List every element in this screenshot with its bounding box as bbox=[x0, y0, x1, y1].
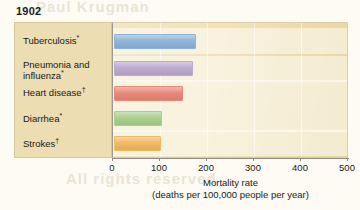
gridline-400 bbox=[301, 23, 302, 157]
bar-tuberculosis bbox=[114, 34, 196, 49]
category-label: Tuberculosis* bbox=[23, 35, 79, 46]
bar-diarrhea bbox=[114, 111, 162, 126]
x-tick-0 bbox=[112, 158, 113, 161]
gridline-300 bbox=[254, 23, 255, 157]
category-label-text: Strokes bbox=[23, 138, 55, 149]
category-label-panel: Tuberculosis*Pneumonia andinfluenza*Hear… bbox=[14, 22, 112, 158]
category-label-text: Heart disease bbox=[23, 87, 82, 98]
x-tick-label-500: 500 bbox=[339, 162, 355, 173]
bar-pneumonia-and-influenza bbox=[114, 61, 193, 76]
category-label-text: Tuberculosis bbox=[23, 35, 77, 46]
footnote-marker: † bbox=[55, 137, 59, 144]
plot-area bbox=[112, 22, 348, 158]
x-tick-label-0: 0 bbox=[109, 162, 114, 173]
x-tick-label-100: 100 bbox=[151, 162, 167, 173]
footnote-marker: † bbox=[82, 86, 86, 93]
category-label: Strokes† bbox=[23, 138, 59, 149]
mortality-rate-bar-chart: Paul Krugman Economics Pearson Education… bbox=[0, 0, 360, 210]
x-axis-line bbox=[112, 158, 349, 159]
category-label-line2: influenza* bbox=[23, 70, 90, 81]
category-label: Pneumonia andinfluenza* bbox=[23, 59, 90, 81]
footnote-marker: * bbox=[59, 112, 62, 119]
bar-strokes bbox=[114, 136, 161, 151]
x-axis-title-main: Mortality rate bbox=[203, 177, 258, 188]
x-tick-100 bbox=[159, 158, 160, 161]
x-tick-label-300: 300 bbox=[245, 162, 261, 173]
category-label: Diarrhea* bbox=[23, 113, 62, 124]
x-tick-label-400: 400 bbox=[292, 162, 308, 173]
x-axis-title: Mortality rate (deaths per 100,000 peopl… bbox=[112, 177, 349, 201]
x-tick-500 bbox=[347, 158, 348, 161]
x-tick-200 bbox=[206, 158, 207, 161]
x-axis-title-sub: (deaths per 100,000 people per year) bbox=[112, 189, 349, 201]
footnote-marker: * bbox=[77, 34, 80, 41]
category-label-text: Pneumonia and bbox=[23, 59, 90, 70]
x-tick-label-200: 200 bbox=[198, 162, 214, 173]
x-tick-300 bbox=[253, 158, 254, 161]
category-label: Heart disease† bbox=[23, 87, 86, 98]
chart-title: 1902 bbox=[16, 5, 41, 17]
watermark-text-1: Paul Krugman bbox=[36, 0, 150, 15]
category-label-text: Diarrhea bbox=[23, 113, 59, 124]
bar-heart-disease bbox=[114, 86, 183, 101]
x-tick-400 bbox=[300, 158, 301, 161]
gridline-200 bbox=[207, 23, 208, 157]
footnote-marker: * bbox=[61, 69, 64, 76]
